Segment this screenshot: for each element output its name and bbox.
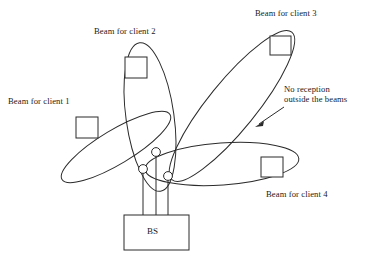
- antenna-element-left: [139, 165, 148, 174]
- no-reception-annotation: No receptionoutside the beams: [284, 84, 364, 105]
- client-terminal-box-2: [125, 57, 147, 78]
- client-terminal-box-3: [270, 36, 291, 55]
- no-reception-arrow-line: [259, 107, 284, 124]
- diagram-canvas: [0, 0, 365, 256]
- base-station-label: BS: [147, 226, 158, 236]
- beam-label-client-3: Beam for client 3: [255, 8, 317, 18]
- beam-ellipse-client-1: [53, 100, 179, 194]
- antenna-element-right: [164, 172, 173, 181]
- client-terminal-box-4: [261, 157, 283, 177]
- antenna-element-center: [152, 148, 161, 157]
- no-reception-line-1: No reception: [284, 84, 330, 94]
- beam-label-client-2: Beam for client 2: [94, 26, 156, 36]
- beam-label-client-1: Beam for client 1: [8, 96, 70, 106]
- beamforming-diagram: Beam for client 1 Beam for client 2 Beam…: [0, 0, 365, 256]
- beam-label-client-4: Beam for client 4: [266, 189, 328, 199]
- client-terminal-box-1: [76, 117, 98, 138]
- no-reception-line-2: outside the beams: [284, 94, 347, 104]
